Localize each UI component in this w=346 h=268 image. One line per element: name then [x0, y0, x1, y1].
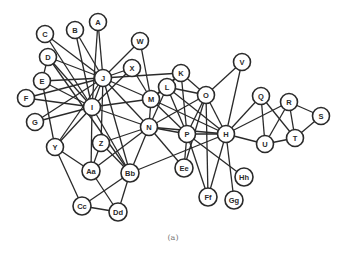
network-graph: ABCDEFGIJWXKLMNOVPHQRSTUYZAaBbCcDdEeFfGg… [0, 0, 346, 268]
node-label: T [293, 134, 298, 143]
node-Hh: Hh [235, 168, 253, 186]
node-label: H [223, 130, 228, 139]
node-label: G [32, 118, 38, 127]
node-label: J [101, 74, 105, 83]
node-Dd: Dd [109, 203, 127, 221]
node-label: U [262, 140, 267, 149]
edge-layer [26, 22, 321, 212]
node-label: S [318, 112, 323, 121]
node-O: O [198, 87, 215, 104]
node-H: H [218, 126, 235, 143]
node-label: L [165, 83, 170, 92]
node-label: M [148, 95, 154, 104]
node-M: M [143, 91, 160, 108]
node-S: S [313, 108, 330, 125]
node-label: F [24, 94, 29, 103]
node-Ee: Ee [175, 159, 193, 177]
node-label: Z [99, 139, 104, 148]
node-label: A [95, 18, 101, 27]
figure-caption: (a) [0, 233, 346, 242]
node-label: Gg [229, 196, 240, 205]
node-label: D [45, 53, 51, 62]
node-label: N [146, 123, 151, 132]
node-G: G [27, 114, 44, 131]
node-R: R [281, 94, 298, 111]
node-D: D [40, 49, 57, 66]
node-Y: Y [47, 139, 64, 156]
node-label: Bb [125, 169, 135, 178]
node-label: Aa [86, 167, 96, 176]
node-Gg: Gg [225, 191, 243, 209]
node-label: W [136, 37, 144, 46]
node-X: X [124, 60, 141, 77]
node-Cc: Cc [73, 197, 91, 215]
node-label: R [286, 98, 292, 107]
node-I: I [84, 99, 101, 116]
node-label: Cc [77, 202, 87, 211]
node-label: I [91, 103, 93, 112]
edge-H-Gg [226, 134, 234, 200]
edge-H-Ff [208, 134, 226, 197]
node-label: V [239, 58, 244, 67]
node-label: X [129, 64, 134, 73]
node-C: C [37, 26, 54, 43]
node-label: Q [258, 92, 264, 101]
node-Aa: Aa [82, 162, 100, 180]
node-B: B [67, 22, 84, 39]
node-label: Y [52, 143, 57, 152]
node-label: E [39, 77, 44, 86]
node-label: B [72, 26, 78, 35]
node-V: V [234, 54, 251, 71]
node-A: A [90, 14, 107, 31]
node-Bb: Bb [121, 164, 139, 182]
node-T: T [287, 130, 304, 147]
node-Q: Q [253, 88, 270, 105]
node-label: Ff [204, 193, 212, 202]
node-F: F [18, 90, 35, 107]
node-N: N [141, 119, 158, 136]
node-W: W [132, 33, 149, 50]
node-label: C [42, 30, 48, 39]
node-K: K [173, 65, 190, 82]
node-U: U [257, 136, 274, 153]
node-label: Ee [179, 164, 188, 173]
node-label: O [203, 91, 209, 100]
node-J: J [95, 70, 112, 87]
edge-O-Ff [206, 95, 208, 197]
node-P: P [179, 126, 196, 143]
node-label: Dd [113, 208, 123, 217]
node-Z: Z [93, 135, 110, 152]
node-L: L [159, 79, 176, 96]
edge-V-H [226, 62, 242, 134]
node-layer: ABCDEFGIJWXKLMNOVPHQRSTUYZAaBbCcDdEeFfGg… [18, 14, 330, 222]
node-label: K [178, 69, 184, 78]
node-Ff: Ff [199, 188, 217, 206]
node-E: E [34, 73, 51, 90]
node-label: Hh [239, 173, 249, 182]
node-label: P [184, 130, 189, 139]
